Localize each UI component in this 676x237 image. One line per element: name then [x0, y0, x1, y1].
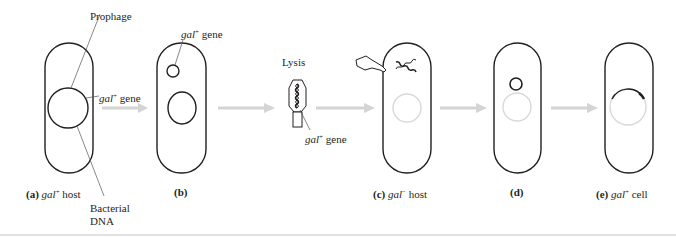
gal-gene-label-a: gal+ gene: [99, 90, 141, 105]
gal-gene-label-b: gal+ gene: [181, 26, 223, 41]
gal-gene-label-phage: gal+ gene: [305, 131, 347, 146]
panel-caption-c: (c) gal− host: [373, 186, 427, 201]
prophage-leader-line: [71, 14, 100, 88]
attached-phage: [356, 56, 386, 72]
cell-a: [45, 14, 104, 196]
gal-plus-dna-circle: [510, 78, 522, 90]
lysis-label: Lysis: [282, 56, 305, 69]
arrow-c-d: [440, 103, 487, 113]
gal-minus-chromosome: [503, 93, 531, 121]
panel-caption-e: (e) gal+ cell: [596, 186, 648, 201]
panel-caption-b: (b): [174, 186, 187, 199]
panel-caption-a: (a) gal+ host: [26, 186, 81, 201]
cell-d: [494, 43, 541, 173]
arrow-b-phage: [218, 103, 275, 113]
transducing-phage: [289, 80, 310, 130]
gal-minus-chromosome: [393, 94, 421, 122]
prophage-label: Prophage: [90, 10, 132, 23]
arrow-phage-c: [316, 103, 375, 113]
bacterial-chromosome-with-prophage: [48, 88, 88, 128]
bottom-rule: [0, 234, 676, 236]
arrow-d-e: [551, 103, 598, 113]
bacterial-dna-leader-line: [77, 126, 104, 196]
bacterial-chromosome: [168, 92, 196, 124]
excised-prophage-circle: [167, 65, 179, 77]
cell-e: [605, 43, 653, 173]
bacterial-dna-label: Bacterial DNA: [90, 202, 130, 228]
panel-caption-d: (d): [510, 186, 523, 199]
cell-b: [157, 40, 206, 173]
